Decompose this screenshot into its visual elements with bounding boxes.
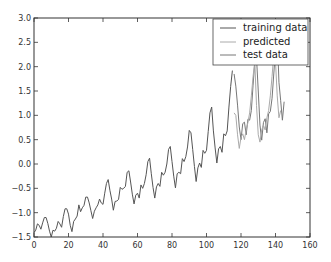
y-tick-label: −1.0	[12, 209, 31, 218]
y-tick-label: 3.0	[18, 14, 31, 23]
legend-label: training data	[243, 22, 307, 33]
y-tick-label: 2.5	[18, 38, 31, 47]
x-tick-label: 80	[167, 241, 177, 250]
x-tick-label: 60	[132, 241, 142, 250]
x-tick-label: 0	[31, 241, 36, 250]
x-tick-label: 100	[199, 241, 214, 250]
y-tick-label: 0.0	[18, 160, 31, 169]
legend-label: predicted	[243, 36, 290, 47]
line-chart: 020406080100120140160−1.5−1.0−0.50.00.51…	[0, 0, 331, 262]
y-tick-label: 1.0	[18, 111, 31, 120]
y-tick-label: −0.5	[12, 184, 31, 193]
y-tick-label: 0.5	[18, 136, 31, 145]
y-tick-label: −1.5	[12, 233, 31, 242]
legend: training data predicted test data	[213, 19, 308, 65]
legend-label: test data	[243, 49, 288, 60]
y-tick-label: 1.5	[18, 87, 31, 96]
x-tick-label: 120	[233, 241, 248, 250]
x-tick-label: 40	[98, 241, 108, 250]
x-tick-label: 160	[302, 241, 317, 250]
x-tick-label: 140	[268, 241, 283, 250]
y-tick-label: 2.0	[18, 63, 31, 72]
x-tick-label: 20	[63, 241, 73, 250]
